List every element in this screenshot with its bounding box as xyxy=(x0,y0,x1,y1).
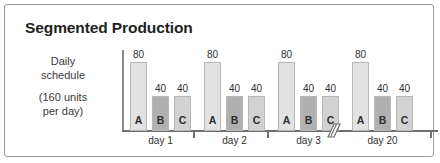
axis-break-icon xyxy=(323,121,345,140)
x-axis-tick xyxy=(267,130,269,138)
bar-a[interactable]: 80A xyxy=(204,62,221,131)
figure-title: Segmented Production xyxy=(25,19,193,37)
bar-c[interactable]: 40C xyxy=(248,96,265,131)
bar-b[interactable]: 40B xyxy=(152,96,169,131)
bar-value-label: 80 xyxy=(125,49,152,60)
y-caption-line-3: (160 units xyxy=(39,91,87,103)
caption-spacer xyxy=(11,82,115,91)
bar-value-label: 80 xyxy=(273,49,300,60)
bar-value-label: 40 xyxy=(317,83,344,94)
bar-letter-label: A xyxy=(353,114,368,126)
bar-a[interactable]: 80A xyxy=(278,62,295,131)
bar-value-label: 80 xyxy=(347,49,374,60)
bar-letter-label: C xyxy=(397,114,412,126)
bar-value-label: 40 xyxy=(169,83,196,94)
y-caption-line-1: Daily xyxy=(51,55,75,67)
x-axis-day-label: day 1 xyxy=(130,135,191,146)
bar-a[interactable]: 80A xyxy=(352,62,369,131)
bar-letter-label: B xyxy=(375,114,390,126)
bar-letter-label: B xyxy=(227,114,242,126)
bar-value-label: 80 xyxy=(199,49,226,60)
bar-c[interactable]: 40C xyxy=(174,96,191,131)
x-axis-tick xyxy=(193,130,195,138)
bar-a[interactable]: 80A xyxy=(130,62,147,131)
bar-letter-label: A xyxy=(279,114,294,126)
bar-letter-label: C xyxy=(249,114,264,126)
y-caption-line-2: schedule xyxy=(41,69,85,81)
bar-letter-label: C xyxy=(175,114,190,126)
bar-value-label: 40 xyxy=(243,83,270,94)
chart-plot-area: 80A40B40Cday 180A40B40Cday 280A40B40Cday… xyxy=(118,45,440,153)
x-axis-tick xyxy=(430,130,432,138)
x-axis-day-label: day 2 xyxy=(204,135,265,146)
y-axis-line xyxy=(122,50,124,131)
bar-letter-label: B xyxy=(301,114,316,126)
bar-letter-label: B xyxy=(153,114,168,126)
bar-letter-label: A xyxy=(205,114,220,126)
bar-c[interactable]: 40C xyxy=(396,96,413,131)
bar-b[interactable]: 40B xyxy=(374,96,391,131)
y-caption-line-4: per day) xyxy=(43,105,83,117)
bar-b[interactable]: 40B xyxy=(226,96,243,131)
bar-letter-label: A xyxy=(131,114,146,126)
bar-b[interactable]: 40B xyxy=(300,96,317,131)
figure-panel: Segmented Production Daily schedule (160… xyxy=(4,4,434,157)
y-axis-caption: Daily schedule (160 units per day) xyxy=(11,55,115,118)
bar-value-label: 40 xyxy=(391,83,418,94)
x-axis-day-label: day 20 xyxy=(352,135,413,146)
